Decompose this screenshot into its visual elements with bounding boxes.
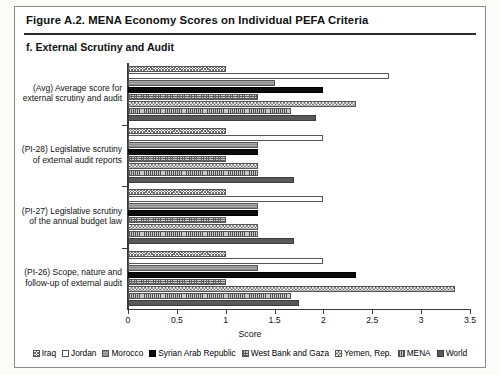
chart-legend: IraqJordanMoroccoSyrian Arab RepublicWes… xyxy=(18,348,482,358)
bar-west-bank-and-gaza xyxy=(128,217,226,223)
category-label: (PI-28) Legislative scrutinyof external … xyxy=(4,144,122,165)
x-axis-line xyxy=(127,309,471,310)
bar-west-bank-and-gaza xyxy=(128,156,226,162)
legend-swatch-icon xyxy=(242,350,249,357)
bar-morocco xyxy=(128,80,275,86)
figure-page: Figure A.2. MENA Economy Scores on Indiv… xyxy=(0,0,500,375)
legend-item[interactable]: Iraq xyxy=(33,348,56,358)
bar-jordan xyxy=(128,258,323,264)
x-tick-mark xyxy=(323,310,324,314)
x-tick-label: 2.5 xyxy=(366,315,378,325)
category-label: (PI-26) Scope, nature andfollow-up of ex… xyxy=(4,267,122,288)
x-tick-label: 0 xyxy=(126,315,131,325)
bar-mena xyxy=(128,108,291,114)
bar-world xyxy=(128,177,294,183)
figure-title: Figure A.2. MENA Economy Scores on Indiv… xyxy=(26,14,466,26)
x-tick-label: 3 xyxy=(419,315,424,325)
y-tick-mark xyxy=(122,186,127,187)
y-tick-mark xyxy=(122,248,127,249)
x-tick-label: 0.5 xyxy=(171,315,183,325)
bar-syrian-arab-republic xyxy=(128,87,323,93)
legend-swatch-icon xyxy=(437,350,444,357)
bar-yemen-rep xyxy=(128,224,258,230)
legend-label: West Bank and Gaza xyxy=(251,348,329,358)
bar-yemen-rep xyxy=(128,286,455,292)
category-label-line: (PI-28) Legislative scrutiny xyxy=(4,144,122,155)
bar-morocco xyxy=(128,203,258,209)
figure-frame xyxy=(14,6,486,368)
category-label-line: external scrutiny and audit xyxy=(4,93,122,104)
legend-label: World xyxy=(446,348,468,358)
bar-morocco xyxy=(128,265,258,271)
category-label: (PI-27) Legislative scrutinyof the annua… xyxy=(4,206,122,227)
legend-swatch-icon xyxy=(33,350,40,357)
bar-west-bank-and-gaza xyxy=(128,279,226,285)
bar-iraq xyxy=(128,66,226,72)
bar-world xyxy=(128,238,294,244)
legend-label: Yemen, Rep. xyxy=(344,348,392,358)
y-tick-mark xyxy=(122,125,127,126)
legend-swatch-icon xyxy=(398,350,405,357)
legend-item[interactable]: World xyxy=(437,348,468,358)
bar-world xyxy=(128,115,316,121)
x-tick-mark xyxy=(177,310,178,314)
legend-item[interactable]: Jordan xyxy=(62,348,96,358)
x-tick-mark xyxy=(421,310,422,314)
bar-morocco xyxy=(128,142,258,148)
x-tick-label: 3.5 xyxy=(464,315,476,325)
category-label-line: of the annual budget law xyxy=(4,216,122,227)
bar-mena xyxy=(128,170,258,176)
x-tick-mark xyxy=(470,310,471,314)
legend-label: Syrian Arab Republic xyxy=(158,348,235,358)
category-label-line: (Avg) Average score for xyxy=(4,83,122,94)
x-tick-mark xyxy=(226,310,227,314)
panel-subtitle: f. External Scrutiny and Audit xyxy=(26,41,174,53)
bar-iraq xyxy=(128,189,226,195)
x-tick-label: 1 xyxy=(223,315,228,325)
bar-yemen-rep xyxy=(128,163,258,169)
bar-jordan xyxy=(128,196,323,202)
legend-swatch-icon xyxy=(102,350,109,357)
legend-label: Morocco xyxy=(111,348,143,358)
bar-world xyxy=(128,300,299,306)
legend-label: MENA xyxy=(407,348,431,358)
legend-item[interactable]: MENA xyxy=(398,348,431,358)
bar-jordan xyxy=(128,73,389,79)
bar-yemen-rep xyxy=(128,101,356,107)
category-label-line: (PI-27) Legislative scrutiny xyxy=(4,206,122,217)
bar-jordan xyxy=(128,135,323,141)
x-tick-mark xyxy=(275,310,276,314)
legend-item[interactable]: Morocco xyxy=(102,348,143,358)
category-label-line: follow-up of external audit xyxy=(4,278,122,289)
bar-mena xyxy=(128,231,258,237)
legend-item[interactable]: West Bank and Gaza xyxy=(242,348,329,358)
x-tick-mark xyxy=(372,310,373,314)
category-label: (Avg) Average score forexternal scrutiny… xyxy=(4,83,122,104)
bar-iraq xyxy=(128,128,226,134)
legend-item[interactable]: Syrian Arab Republic xyxy=(149,348,235,358)
legend-label: Jordan xyxy=(71,348,96,358)
bar-west-bank-and-gaza xyxy=(128,94,258,100)
legend-swatch-icon xyxy=(62,350,69,357)
bar-syrian-arab-republic xyxy=(128,272,356,278)
x-tick-label: 2 xyxy=(321,315,326,325)
legend-swatch-icon xyxy=(335,350,342,357)
category-label-line: (PI-26) Scope, nature and xyxy=(4,267,122,278)
x-axis-title: Score xyxy=(0,329,500,339)
x-tick-label: 1.5 xyxy=(269,315,281,325)
bar-syrian-arab-republic xyxy=(128,210,258,216)
x-tick-mark xyxy=(128,310,129,314)
bar-mena xyxy=(128,293,291,299)
title-divider xyxy=(24,33,476,35)
bar-iraq xyxy=(128,251,226,257)
legend-item[interactable]: Yemen, Rep. xyxy=(335,348,392,358)
bar-syrian-arab-republic xyxy=(128,149,258,155)
category-label-line: of external audit reports xyxy=(4,155,122,166)
legend-label: Iraq xyxy=(42,348,56,358)
legend-swatch-icon xyxy=(149,350,156,357)
